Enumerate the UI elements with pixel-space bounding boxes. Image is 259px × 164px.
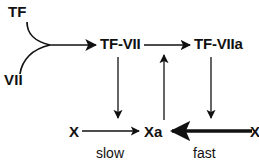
edge-tf-to-complex	[27, 22, 50, 45]
node-label-x-left: X	[69, 124, 79, 139]
pathway-diagram: TF VII TF-VII TF-VIIa X Xa X slow fast	[0, 0, 259, 164]
node-label-tf-viia: TF-VIIa	[194, 36, 243, 51]
edge-label-fast: fast	[193, 146, 216, 160]
diagram-canvas	[0, 0, 259, 164]
node-label-vii: VII	[4, 72, 23, 87]
node-label-xa: Xa	[144, 124, 162, 139]
node-label-tf-vii: TF-VII	[100, 36, 140, 51]
edge-label-slow: slow	[96, 146, 124, 160]
edge-vii-to-complex	[20, 45, 50, 74]
node-label-tf: TF	[8, 4, 27, 19]
node-label-x-right: X	[250, 124, 259, 139]
